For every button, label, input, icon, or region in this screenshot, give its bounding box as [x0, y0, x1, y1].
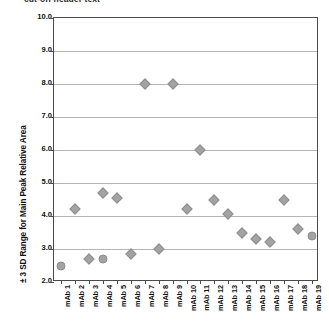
gridline	[54, 216, 317, 217]
data-point	[278, 194, 289, 205]
data-point	[308, 231, 317, 240]
gridline	[54, 183, 317, 184]
y-tick-label: 9.0	[22, 46, 52, 54]
y-tick-mark	[51, 84, 54, 85]
data-point	[251, 233, 262, 244]
data-point	[83, 253, 94, 264]
gridline	[54, 117, 317, 118]
x-tick-label: mAb 8	[161, 285, 170, 307]
data-point	[69, 204, 80, 215]
plot-area	[53, 17, 318, 281]
x-tick-label: mAb 11	[202, 285, 211, 311]
data-point	[209, 194, 220, 205]
x-tick-label: mAb 17	[286, 285, 295, 311]
y-tick-label: 7.0	[22, 112, 52, 120]
data-point	[97, 187, 108, 198]
y-tick-mark	[51, 51, 54, 52]
data-point	[167, 78, 178, 89]
x-tick-label: mAb 19	[314, 285, 323, 311]
x-tick-label: mAb 3	[91, 285, 100, 307]
gridline	[54, 150, 317, 151]
y-axis-tick-labels: 10.09.08.07.06.05.04.03.02.0	[22, 0, 52, 300]
x-tick-label: mAb 15	[258, 285, 267, 311]
gridline	[54, 51, 317, 52]
x-tick-label: mAb 18	[300, 285, 309, 311]
x-tick-label: mAb 10	[189, 285, 198, 311]
y-tick-label: 6.0	[22, 145, 52, 153]
x-tick-label: mAb 1	[63, 285, 72, 307]
data-point	[292, 224, 303, 235]
y-tick-mark	[51, 216, 54, 217]
y-tick-mark	[51, 18, 54, 19]
data-point	[111, 192, 122, 203]
data-point	[181, 204, 192, 215]
data-point	[195, 144, 206, 155]
x-axis-tick-labels: mAb 1mAb 2mAb 3mAb 4mAb 5mAb 6mAb 7mAb 8…	[53, 281, 318, 323]
data-point	[139, 78, 150, 89]
data-point	[237, 227, 248, 238]
x-tick-label: mAb 7	[147, 285, 156, 307]
y-tick-label: 10.0	[22, 13, 52, 21]
data-point	[98, 254, 107, 263]
y-tick-mark	[51, 117, 54, 118]
x-tick-label: mAb 6	[133, 285, 142, 307]
x-tick-label: mAb 14	[244, 285, 253, 311]
y-axis-title: ± 3 SD Range for Main Peak Relative Area	[0, 0, 24, 290]
x-tick-label: mAb 12	[216, 285, 225, 311]
y-tick-label: 5.0	[22, 178, 52, 186]
x-tick-label: mAb 13	[230, 285, 239, 311]
data-point	[56, 261, 65, 270]
gridline	[54, 249, 317, 250]
y-tick-label: 2.0	[22, 277, 52, 285]
gridline	[54, 84, 317, 85]
y-tick-mark	[51, 183, 54, 184]
x-tick-label: mAb 2	[77, 285, 86, 307]
data-point	[223, 209, 234, 220]
y-tick-label: 3.0	[22, 244, 52, 252]
chart-figure: cut-off header text ± 3 SD Range for Mai…	[0, 0, 329, 323]
x-tick-label: mAb 16	[272, 285, 281, 311]
data-point	[153, 243, 164, 254]
x-tick-label: mAb 9	[175, 285, 184, 307]
y-tick-mark	[51, 150, 54, 151]
y-tick-label: 8.0	[22, 79, 52, 87]
y-tick-mark	[51, 249, 54, 250]
x-tick-label: mAb 4	[105, 285, 114, 307]
y-tick-label: 4.0	[22, 211, 52, 219]
x-tick-label: mAb 5	[119, 285, 128, 307]
data-point	[265, 237, 276, 248]
